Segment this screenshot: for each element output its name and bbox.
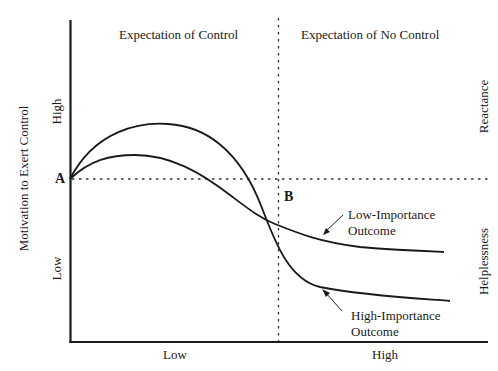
high-importance-label-line2: Outcome: [351, 325, 399, 338]
low-importance-label-line2: Outcome: [348, 224, 396, 237]
low-importance-arrowhead: [323, 228, 330, 235]
reactance-label: Reactance: [477, 67, 490, 147]
low-importance-label-line1: Low-Importance: [348, 208, 435, 221]
y-axis-title: Motivation to Exert Control: [17, 104, 30, 254]
x-tick-high: High: [372, 348, 398, 361]
x-tick-low: Low: [163, 348, 187, 361]
region-label-control: Expectation of Control: [119, 28, 238, 41]
y-tick-low: Low: [50, 254, 63, 284]
region-label-no-control: Expectation of No Control: [301, 28, 439, 41]
high-importance-label-line1: High-Importance: [351, 309, 441, 322]
y-tick-high: High: [50, 97, 63, 127]
low-importance-arrow: [325, 215, 343, 232]
point-a-label: A: [55, 172, 65, 186]
point-b-label: B: [284, 190, 293, 204]
helplessness-label: Helplessness: [477, 212, 490, 312]
